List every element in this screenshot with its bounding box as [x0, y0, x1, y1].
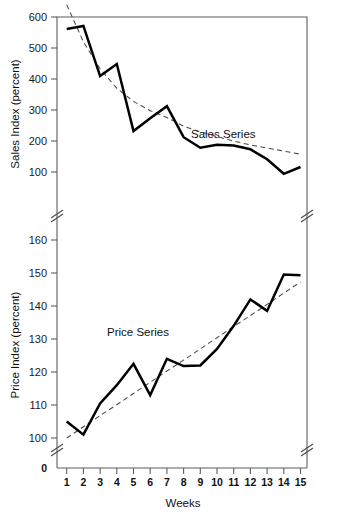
x-ticks: [67, 468, 301, 474]
sales-y-axis-title: Sales Index (percent): [9, 59, 21, 168]
sales-ytick-600: 600: [29, 11, 47, 23]
price-ytick-130: 130: [29, 333, 47, 345]
xtick-6: 6: [147, 476, 153, 488]
xtick-9: 9: [197, 476, 203, 488]
xtick-10: 10: [211, 476, 223, 488]
price-panel: 160 150 140 130 120 110 100 Price Index …: [9, 232, 307, 444]
xtick-2: 2: [80, 476, 86, 488]
price-ytick-150: 150: [29, 267, 47, 279]
sales-y-ticks: [51, 17, 57, 172]
sales-plot-frame: [57, 17, 307, 211]
xtick-14: 14: [278, 476, 290, 488]
price-ytick-110: 110: [29, 399, 47, 411]
price-ytick-120: 120: [29, 366, 47, 378]
xtick-3: 3: [97, 476, 103, 488]
sales-panel: 600 500 400 300 200 100 Sales Index (per…: [9, 5, 307, 211]
price-data-line: [67, 275, 301, 435]
xtick-15: 15: [295, 476, 307, 488]
x-axis: 0 1 2 3 4: [41, 456, 307, 509]
sales-trend-line: [67, 5, 301, 155]
price-series-label: Price Series: [107, 326, 169, 338]
xtick-4: 4: [114, 476, 120, 488]
axis-break-group: [51, 210, 313, 232]
sales-ytick-500: 500: [29, 42, 47, 54]
xtick-8: 8: [181, 476, 187, 488]
xtick-1: 1: [64, 476, 70, 488]
price-ytick-100: 100: [29, 432, 47, 444]
sales-ytick-300: 300: [29, 104, 47, 116]
sales-ytick-100: 100: [29, 166, 47, 178]
sales-ytick-400: 400: [29, 73, 47, 85]
xtick-7: 7: [164, 476, 170, 488]
sales-series-label: Sales Series: [191, 128, 256, 140]
sales-data-line: [67, 26, 301, 174]
lower-axis-break-group: [51, 442, 313, 456]
price-ytick-140: 140: [29, 300, 47, 312]
sales-ytick-200: 200: [29, 135, 47, 147]
chart-figure: 600 500 400 300 200 100 Sales Index (per…: [0, 0, 345, 518]
xtick-5: 5: [131, 476, 137, 488]
xtick-12: 12: [245, 476, 257, 488]
price-y-axis-title: Price Index (percent): [9, 291, 21, 398]
chart-svg: 600 500 400 300 200 100 Sales Index (per…: [0, 0, 345, 518]
xtick-11: 11: [228, 476, 239, 488]
price-y-ticks: [51, 240, 57, 438]
price-trend-line: [67, 282, 301, 438]
x-axis-title: Weeks: [166, 497, 201, 509]
x-origin-label: 0: [41, 462, 47, 474]
price-ytick-160: 160: [29, 234, 47, 246]
xtick-13: 13: [261, 476, 273, 488]
